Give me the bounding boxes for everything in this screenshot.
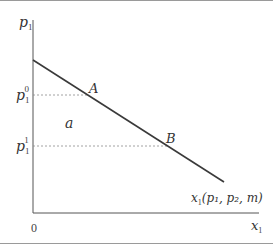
region-a-label: a [65, 115, 73, 131]
point-a-label: A [88, 81, 98, 96]
price-level-1-label: p11 [16, 135, 29, 156]
y-axis-label: p1 [19, 14, 32, 32]
price-level-0-label: p10 [16, 84, 29, 105]
demand-curve-label: x1(p₁, p₂, m) [191, 191, 263, 207]
point-b-label: B [165, 131, 176, 146]
demand-diagram: p1 p10 p11 A B a x1(p₁, p₂, m) 0 x1 [0, 0, 273, 246]
x-axis-label: x1 [251, 218, 262, 235]
demand-curve [33, 60, 224, 182]
origin-label: 0 [31, 221, 37, 235]
